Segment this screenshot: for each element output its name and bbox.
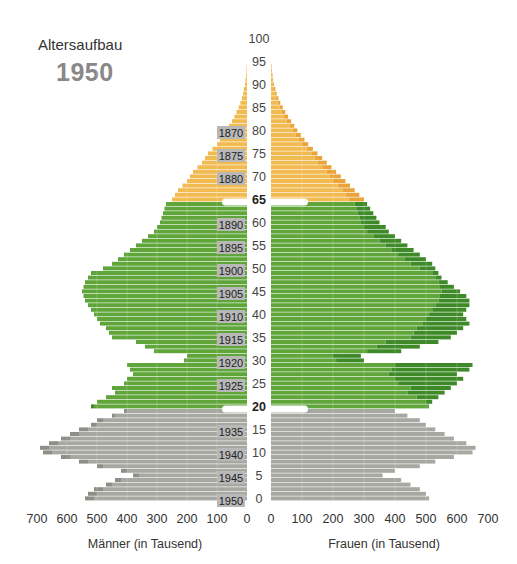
- male-bars: [40, 64, 247, 500]
- female-bar: [271, 345, 376, 349]
- female-bar: [271, 496, 429, 500]
- female-surplus-bar: [333, 179, 345, 183]
- female-bar: [271, 478, 401, 482]
- x-axis: Männer (in Tausend) Frauen (in Tausend) …: [27, 512, 499, 551]
- female-surplus-bar: [432, 271, 438, 275]
- male-surplus-bar: [79, 460, 88, 464]
- male-x-tick: 500: [87, 512, 108, 526]
- female-bar: [271, 418, 420, 422]
- female-bar: [271, 460, 435, 464]
- female-surplus-bar: [273, 78, 274, 82]
- male-surplus-bar: [97, 418, 103, 422]
- age-tick-10: 10: [252, 446, 266, 460]
- male-bar: [234, 115, 247, 119]
- female-bar: [271, 303, 435, 307]
- male-surplus-bar: [97, 464, 103, 468]
- female-surplus-bar: [367, 349, 401, 353]
- male-bar: [244, 87, 247, 91]
- female-bar: [271, 101, 278, 105]
- female-surplus-bar: [356, 207, 370, 211]
- female-bar: [271, 441, 466, 445]
- cohort-label-1880: 1880: [219, 173, 243, 185]
- male-bar: [165, 207, 248, 211]
- male-surplus-bar: [94, 487, 103, 491]
- age-tick-25: 25: [252, 377, 266, 391]
- female-bar: [271, 78, 273, 82]
- male-surplus-bar: [43, 450, 52, 454]
- age-tick-0: 0: [256, 492, 263, 506]
- female-x-tick: 100: [292, 512, 313, 526]
- age-tick-40: 40: [252, 308, 266, 322]
- cohort-label-1945: 1945: [219, 472, 243, 484]
- male-bar: [237, 110, 248, 114]
- female-bar: [271, 492, 426, 496]
- male-surplus-bar: [49, 441, 58, 445]
- male-bar: [133, 372, 247, 376]
- female-surplus-bar: [302, 142, 308, 146]
- female-bar: [271, 464, 420, 468]
- female-bar: [271, 391, 407, 395]
- cohort-labels: 1870187518801890189519001905191019151920…: [217, 126, 245, 507]
- female-surplus-bar: [330, 174, 341, 178]
- age-tick-30: 30: [252, 354, 266, 368]
- age-tick-85: 85: [252, 101, 266, 115]
- male-x-tick: 600: [57, 512, 78, 526]
- female-surplus-bar: [432, 308, 466, 312]
- female-x-tick: 400: [385, 512, 406, 526]
- female-x-tick: 500: [416, 512, 437, 526]
- female-bar: [271, 230, 367, 234]
- male-surplus-bar: [91, 404, 94, 408]
- male-bar: [232, 119, 247, 123]
- female-surplus-bar: [311, 151, 317, 155]
- female-bar: [271, 161, 318, 165]
- female-bar: [271, 358, 336, 362]
- female-surplus-bar: [438, 299, 469, 303]
- female-bar: [271, 225, 364, 229]
- female-bar: [271, 211, 358, 215]
- age-tick-75: 75: [252, 147, 266, 161]
- female-surplus-bar: [420, 266, 436, 270]
- age-axis: 0510152025303540455055606570758085909510…: [248, 32, 270, 506]
- age-tick-90: 90: [252, 78, 266, 92]
- female-bar: [271, 414, 407, 418]
- female-surplus-bar: [411, 335, 451, 339]
- female-bar: [271, 165, 322, 169]
- female-bar: [271, 151, 311, 155]
- female-surplus-bar: [389, 372, 457, 376]
- female-surplus-bar: [395, 363, 473, 367]
- female-surplus-bar: [414, 331, 457, 335]
- age-tick-70: 70: [252, 170, 266, 184]
- male-bar: [115, 414, 247, 418]
- male-surplus-bar: [61, 437, 70, 441]
- female-surplus-bar: [426, 400, 432, 404]
- female-bar: [271, 289, 442, 293]
- female-bar: [271, 138, 299, 142]
- male-x-tick: 400: [117, 512, 138, 526]
- cohort-label-1920: 1920: [219, 357, 243, 369]
- female-surplus-bar: [273, 82, 274, 86]
- female-bar: [271, 487, 420, 491]
- age-tick-65: 65: [252, 193, 266, 207]
- female-bar: [271, 193, 345, 197]
- female-bar: [271, 96, 276, 100]
- cohort-label-1905: 1905: [219, 288, 243, 300]
- female-surplus-bar: [284, 115, 288, 119]
- female-surplus-bar: [417, 326, 464, 330]
- female-surplus-bar: [282, 110, 285, 114]
- female-bar: [271, 308, 432, 312]
- female-surplus-bar: [293, 128, 298, 132]
- cohort-label-1875: 1875: [219, 150, 243, 162]
- female-bar: [271, 266, 420, 270]
- female-bar: [271, 110, 282, 114]
- female-surplus-bar: [318, 161, 327, 165]
- female-bar: [271, 147, 307, 151]
- male-surplus-bar: [70, 432, 79, 436]
- female-bar: [271, 174, 330, 178]
- cohort-label-1895: 1895: [219, 242, 243, 254]
- female-surplus-bar: [426, 317, 466, 321]
- male-bar: [175, 193, 247, 197]
- cohort-label-1925: 1925: [219, 380, 243, 392]
- male-bar: [217, 142, 247, 146]
- female-bar: [271, 335, 411, 339]
- female-bar: [271, 142, 302, 146]
